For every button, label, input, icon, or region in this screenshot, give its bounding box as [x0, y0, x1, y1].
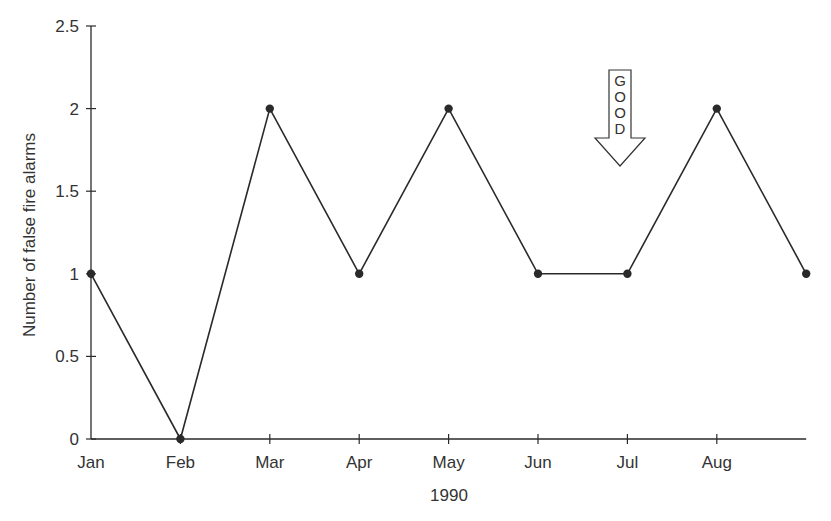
x-tick-label: Apr [346, 453, 373, 472]
annotation-letter: O [614, 104, 626, 121]
line-chart: 00.511.522.5 JanFebMarAprMayJunJulAug Nu… [0, 0, 831, 521]
data-point [266, 104, 274, 112]
x-tick-label: May [433, 453, 466, 472]
good-arrow-annotation: GOOD [595, 70, 645, 166]
y-tick-label: 1.5 [55, 182, 79, 201]
data-point [444, 104, 452, 112]
x-tick-label: Jan [77, 453, 104, 472]
data-point [87, 270, 95, 278]
series-line [91, 109, 806, 439]
data-point [355, 270, 363, 278]
x-tick-label: Jun [524, 453, 551, 472]
data-point [802, 270, 810, 278]
annotation-letter: O [614, 88, 626, 105]
data-point [713, 104, 721, 112]
x-tick-label: Jul [617, 453, 639, 472]
data-series [87, 104, 811, 443]
x-tick-label: Mar [255, 453, 285, 472]
y-tick-label: 0.5 [55, 347, 79, 366]
y-tick-label: 0 [70, 430, 79, 449]
data-point [623, 270, 631, 278]
annotation-letter: G [614, 72, 626, 89]
x-tick-label: Feb [166, 453, 195, 472]
annotation-letter: D [615, 120, 626, 137]
x-axis-ticks: JanFebMarAprMayJunJulAug [77, 434, 732, 472]
x-axis-title: 1990 [430, 486, 468, 505]
x-tick-label: Aug [702, 453, 732, 472]
data-point [176, 435, 184, 443]
y-tick-label: 1 [70, 265, 79, 284]
axes [91, 26, 806, 439]
y-tick-label: 2 [70, 100, 79, 119]
y-axis-ticks: 00.511.522.5 [55, 17, 96, 449]
y-tick-label: 2.5 [55, 17, 79, 36]
data-point [534, 270, 542, 278]
y-axis-title: Number of false fire alarms [20, 133, 39, 337]
